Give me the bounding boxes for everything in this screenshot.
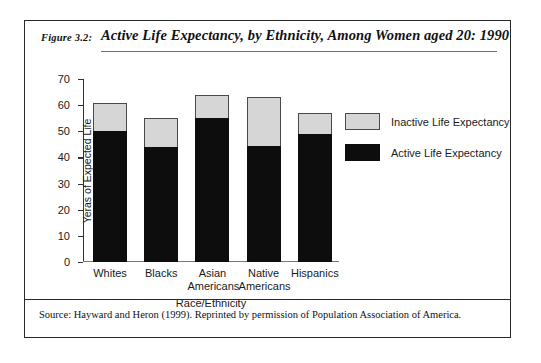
y-axis-tick-label: 20	[58, 204, 70, 215]
bar-segment-active	[298, 134, 332, 262]
source-divider	[25, 299, 510, 300]
bar-segment-active	[195, 118, 229, 262]
bar-segment-inactive	[93, 103, 127, 132]
bar-segment-active	[144, 147, 178, 262]
bar-segment-inactive	[195, 95, 229, 119]
legend-swatch	[345, 144, 380, 161]
y-axis-tick-label: 0	[64, 257, 70, 268]
title-divider	[101, 51, 497, 52]
figure-number: Figure 3.2:	[41, 32, 92, 43]
legend-item[interactable]: Inactive Life Expectancy	[345, 113, 510, 130]
bar-asian-americans[interactable]: AsianAmericans	[195, 95, 229, 262]
x-axis-category-label: Blacks	[136, 267, 186, 280]
bar-blacks[interactable]: Blacks	[144, 118, 178, 262]
chart-plot-area: 010203040506070 WhitesBlacksAsianAmerica…	[25, 61, 512, 301]
bar-segment-active	[247, 146, 281, 262]
chart-axes: 010203040506070 WhitesBlacksAsianAmerica…	[83, 79, 315, 262]
bar-native-americans[interactable]: NativeAmericans	[247, 97, 281, 262]
bar-segment-active	[93, 131, 127, 262]
y-axis-tick-label: 50	[58, 126, 70, 137]
y-axis-tick-label: 60	[58, 100, 70, 111]
y-axis-tick: 0	[78, 262, 83, 263]
y-axis-tick: 60	[78, 105, 83, 106]
y-axis-tick: 10	[78, 236, 83, 237]
chart-legend: Inactive Life ExpectancyActive Life Expe…	[345, 113, 510, 175]
x-axis-category-label: Hispanics	[290, 267, 340, 280]
source-note: Source: Hayward and Heron (1999). Reprin…	[39, 309, 461, 320]
bar-segment-inactive	[298, 113, 332, 134]
y-axis-tick-label: 70	[58, 74, 70, 85]
bar-segment-inactive	[247, 97, 281, 145]
x-axis-category-label: Whites	[85, 267, 135, 280]
legend-label: Inactive Life Expectancy	[391, 116, 510, 128]
y-axis-tick-label: 40	[58, 152, 70, 163]
figure-title: Active Life Expectancy, by Ethnicity, Am…	[101, 27, 509, 44]
legend-label: Active Life Expectancy	[391, 147, 502, 159]
figure-header: Figure 3.2: Active Life Expectancy, by E…	[25, 21, 510, 61]
bar-hispanics[interactable]: Hispanics	[298, 113, 332, 262]
y-axis-tick-label: 10	[58, 230, 70, 241]
bar-segment-inactive	[144, 118, 178, 147]
y-axis-tick-label: 30	[58, 178, 70, 189]
legend-swatch	[345, 113, 380, 130]
x-axis-category-label: NativeAmericans	[239, 267, 289, 292]
legend-item[interactable]: Active Life Expectancy	[345, 144, 510, 161]
y-axis-title: Yeras of Expected Life	[81, 118, 93, 223]
y-axis-tick: 70	[78, 79, 83, 80]
figure-card: Figure 3.2: Active Life Expectancy, by E…	[24, 20, 511, 338]
bar-whites[interactable]: Whites	[93, 103, 127, 262]
x-axis-category-label: AsianAmericans	[187, 267, 237, 292]
